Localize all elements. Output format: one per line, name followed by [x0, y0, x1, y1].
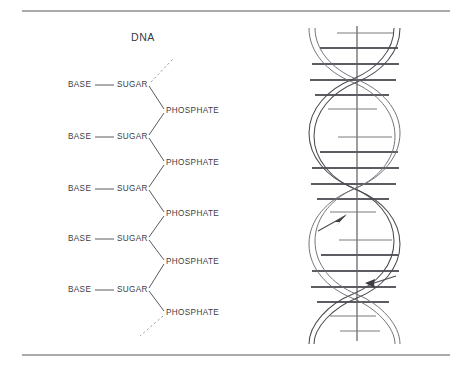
sugar-phosphate-bond-3	[149, 190, 164, 212]
sugar-label-2: SUGAR	[117, 133, 148, 141]
phosphate-label-2: PHOSPHATE	[166, 159, 219, 167]
base-label-2: BASE	[68, 133, 91, 141]
strand-direction-arrow-up-tail	[318, 216, 345, 231]
sugar-phosphate-bond-5	[149, 291, 164, 311]
base-label-4: BASE	[68, 235, 91, 243]
frame-rules	[22, 11, 450, 355]
strand-b-edge-2	[315, 28, 400, 344]
base-label-3: BASE	[68, 185, 91, 193]
backbone-bonds	[95, 59, 173, 336]
dna-double-helix	[309, 26, 400, 344]
phosphate-label-3: PHOSPHATE	[166, 210, 219, 218]
sugar-label-5: SUGAR	[117, 286, 148, 294]
phosphate-sugar-bond-3	[149, 216, 164, 237]
phosphate-label-4: PHOSPHATE	[166, 258, 219, 266]
helix-direction-arrows	[318, 214, 396, 288]
strand-direction-arrow-down-tail	[374, 276, 396, 283]
strand-b-edge-1	[309, 28, 395, 344]
dna-figure: DNA BASE SUGAR PHOSPHATE BASE SUGAR PHOS…	[0, 0, 472, 370]
sugar-label-3: SUGAR	[117, 185, 148, 193]
phosphate-sugar-bond-1	[149, 113, 164, 135]
sugar-phosphate-bond-4	[149, 240, 164, 260]
phosphate-sugar-bond-2	[149, 165, 164, 187]
base-label-1: BASE	[68, 81, 91, 89]
phosphate-label-5: PHOSPHATE	[166, 309, 219, 317]
sugar-label-1: SUGAR	[117, 81, 148, 89]
backbone-lead-out-dashed	[140, 316, 163, 336]
strand-a-edge-1	[314, 28, 400, 344]
strand-direction-arrow-down	[365, 279, 375, 288]
phosphate-sugar-bond-4	[149, 264, 164, 288]
helix-strand-a	[309, 28, 400, 344]
helix-base-pair-rungs	[310, 33, 399, 331]
backbone-lead-in-dashed	[151, 59, 173, 82]
sugar-label-4: SUGAR	[117, 235, 148, 243]
strand-a-edge-2	[309, 28, 394, 344]
base-label-5: BASE	[68, 286, 91, 294]
sugar-phosphate-bond-1	[149, 86, 164, 109]
sugar-phosphate-bond-2	[149, 138, 164, 161]
helix-strand-b	[309, 28, 400, 344]
page-title: DNA	[131, 32, 155, 43]
phosphate-label-1: PHOSPHATE	[166, 107, 219, 115]
strand-direction-arrow-up	[334, 214, 347, 226]
